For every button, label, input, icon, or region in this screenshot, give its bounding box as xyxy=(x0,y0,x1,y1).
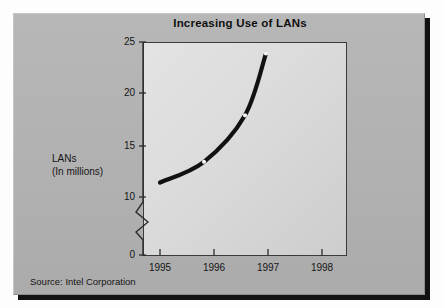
y-axis-title-line2: (In millions) xyxy=(52,165,103,178)
chart-figure: Increasing Use of LANs 25 20 15 xyxy=(0,0,443,308)
chart-title: Increasing Use of LANs xyxy=(130,17,350,29)
x-tick-label-1997: 1997 xyxy=(246,262,290,273)
y-tick-label-20: 20 xyxy=(105,88,135,98)
y-axis-title-line1: LANs xyxy=(52,152,103,165)
x-tick-label-1995: 1995 xyxy=(138,262,182,273)
data-point-marker-1996 xyxy=(202,160,206,164)
data-series-line xyxy=(160,53,266,182)
y-axis-title: LANs (In millions) xyxy=(52,152,103,178)
plot-area xyxy=(143,42,347,256)
data-point-marker-1998 xyxy=(264,51,269,56)
data-line-svg xyxy=(144,43,346,255)
data-point-marker-1997 xyxy=(243,113,247,117)
y-tick-label-10: 10 xyxy=(105,192,135,202)
x-tick-label-1996: 1996 xyxy=(192,262,236,273)
y-tick-label-15: 15 xyxy=(105,141,135,151)
y-tick-label-25: 25 xyxy=(105,37,135,47)
x-tick-label-1998: 1998 xyxy=(300,262,344,273)
source-note: Source: Intel Corporation xyxy=(30,276,136,287)
y-tick-label-0: 0 xyxy=(105,250,135,260)
